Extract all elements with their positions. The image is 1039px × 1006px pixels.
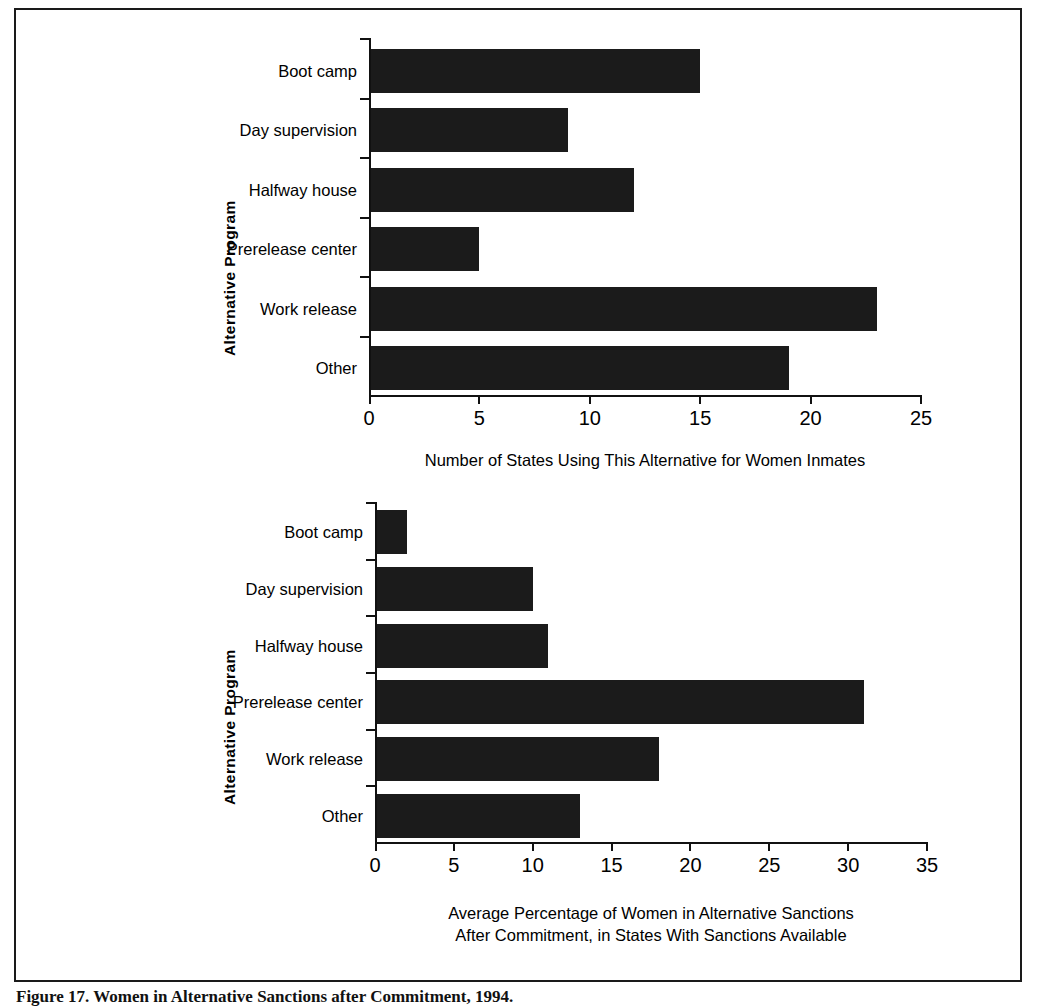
y-category-label: Other <box>322 806 363 825</box>
chart-panel-top: Alternative Program Boot campDay supervi… <box>16 16 1020 474</box>
plot-area-bottom: 05101520253035 <box>375 502 927 842</box>
y-category-label: Day supervision <box>246 580 363 599</box>
y-category-label: Work release <box>266 750 363 769</box>
x-axis-tick <box>589 395 591 404</box>
x-axis-tick-label: 35 <box>916 854 938 877</box>
x-axis-line <box>375 842 927 844</box>
x-axis-label-bottom: Average Percentage of Women in Alternati… <box>375 902 927 947</box>
bar <box>377 624 548 668</box>
bar <box>371 108 568 152</box>
x-axis-tick <box>926 842 928 851</box>
x-axis-label-top: Number of States Using This Alternative … <box>369 449 921 471</box>
bar <box>377 567 533 611</box>
bar <box>371 346 789 390</box>
bar <box>377 737 659 781</box>
y-category-label: Halfway house <box>255 636 363 655</box>
x-axis-tick <box>369 395 371 404</box>
x-axis-tick-label: 15 <box>689 407 711 430</box>
x-axis-tick <box>699 395 701 404</box>
y-category-label: Other <box>316 359 357 378</box>
y-axis-tick <box>366 502 375 504</box>
y-axis-tick <box>360 217 369 219</box>
x-axis-tick <box>532 842 534 851</box>
x-axis-tick-label: 30 <box>837 854 859 877</box>
y-category-label: Day supervision <box>240 121 357 140</box>
x-axis-tick <box>847 842 849 851</box>
y-axis-tick <box>360 336 369 338</box>
x-axis-tick-label: 25 <box>910 407 932 430</box>
x-axis-tick-label: 25 <box>758 854 780 877</box>
y-axis-tick <box>360 98 369 100</box>
chart-panel-bottom: Alternative Program Boot campDay supervi… <box>16 480 1020 980</box>
x-axis-tick <box>611 842 613 851</box>
x-axis-tick-label: 5 <box>474 407 485 430</box>
y-axis-tick <box>366 729 375 731</box>
x-axis-tick-label: 5 <box>448 854 459 877</box>
plot-area-top: 0510152025 <box>369 38 921 395</box>
bar <box>377 680 864 724</box>
bar <box>371 227 479 271</box>
y-category-labels-bottom: Boot campDay supervisionHalfway housePre… <box>16 502 375 842</box>
y-axis-tick <box>366 615 375 617</box>
x-axis-tick <box>453 842 455 851</box>
x-axis-tick-label: 20 <box>679 854 701 877</box>
y-axis-tick <box>360 38 369 40</box>
y-axis-tick <box>360 157 369 159</box>
y-axis-tick <box>366 672 375 674</box>
x-axis-tick <box>920 395 922 404</box>
x-axis-label-bottom-line1: Average Percentage of Women in Alternati… <box>375 902 927 924</box>
x-axis-label-top-text: Number of States Using This Alternative … <box>425 451 866 469</box>
y-axis-tick <box>366 559 375 561</box>
y-category-label: Boot camp <box>284 523 363 542</box>
x-axis-tick-label: 20 <box>799 407 821 430</box>
x-axis-tick-label: 10 <box>522 854 544 877</box>
y-category-label: Work release <box>260 299 357 318</box>
x-axis-label-bottom-line2: After Commitment, in States With Sanctio… <box>375 924 927 946</box>
x-axis-tick <box>810 395 812 404</box>
y-category-label: Halfway house <box>249 180 357 199</box>
y-axis-tick <box>366 785 375 787</box>
x-axis-tick <box>689 842 691 851</box>
x-axis-tick <box>375 842 377 851</box>
y-category-label: Prerelease center <box>227 240 357 259</box>
y-axis-tick <box>360 276 369 278</box>
x-axis-line <box>369 395 921 397</box>
y-category-labels-top: Boot campDay supervisionHalfway housePre… <box>16 38 369 395</box>
bar <box>371 168 634 212</box>
x-axis-tick-label: 0 <box>369 854 380 877</box>
x-axis-tick <box>768 842 770 851</box>
bar <box>377 510 407 554</box>
figure-caption: Figure 17. Women in Alternative Sanction… <box>16 986 1026 1006</box>
x-axis-tick <box>478 395 480 404</box>
x-axis-tick-label: 15 <box>600 854 622 877</box>
y-category-label: Prerelease center <box>233 693 363 712</box>
figure-frame: Alternative Program Boot campDay supervi… <box>14 8 1022 982</box>
x-axis-tick-label: 10 <box>579 407 601 430</box>
bar <box>371 49 700 93</box>
y-category-label: Boot camp <box>278 61 357 80</box>
bar <box>377 794 580 838</box>
bar <box>371 287 877 331</box>
x-axis-tick-label: 0 <box>363 407 374 430</box>
